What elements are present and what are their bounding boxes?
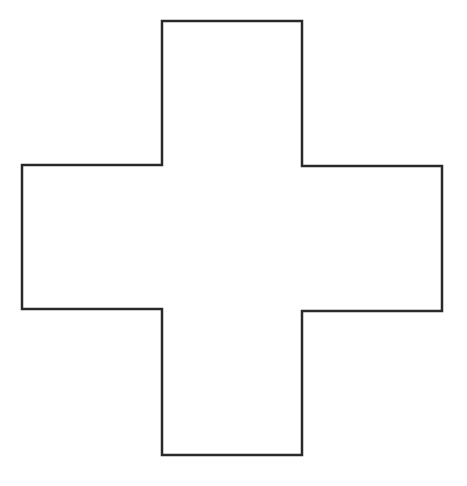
diagram-canvas: Outlined Greek cross (plus sign) shape [0,0,467,486]
cross-diagram [0,0,467,486]
cross-shape [22,21,442,455]
